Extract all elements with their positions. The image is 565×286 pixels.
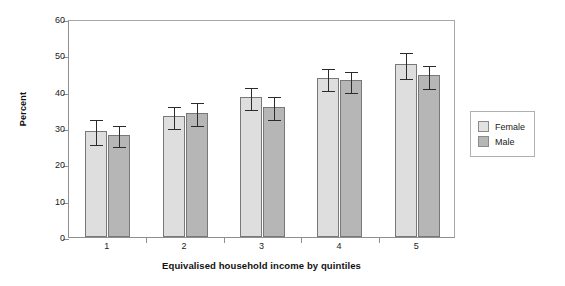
error-cap-upper bbox=[90, 120, 103, 121]
bar-female-q1 bbox=[85, 131, 107, 237]
chart-legend: Female Male bbox=[470, 111, 535, 157]
y-tick-label: 20 bbox=[55, 160, 65, 171]
error-bar-male-q5 bbox=[429, 66, 430, 89]
y-tick-label: 0 bbox=[60, 233, 65, 244]
error-cap-upper bbox=[345, 72, 358, 73]
bar-male-q2 bbox=[186, 113, 208, 237]
error-cap-upper bbox=[168, 107, 181, 108]
error-cap-lower bbox=[268, 120, 281, 121]
x-tick-mark bbox=[379, 237, 380, 243]
error-bar-female-q4 bbox=[328, 69, 329, 92]
error-cap-upper bbox=[322, 69, 335, 70]
legend-label-male: Male bbox=[495, 137, 515, 147]
plot-area: 0102030405060 bbox=[68, 20, 455, 238]
legend-item-female: Female bbox=[478, 119, 525, 134]
legend-swatch-male-icon bbox=[478, 136, 489, 147]
legend-label-female: Female bbox=[495, 122, 525, 132]
error-cap-lower bbox=[90, 145, 103, 146]
x-tick-mark bbox=[301, 237, 302, 243]
error-cap-upper bbox=[423, 66, 436, 67]
error-cap-lower bbox=[322, 91, 335, 92]
chart-figure: Percent 0102030405060 12345 Equivalised … bbox=[0, 0, 565, 286]
bar-male-q3 bbox=[263, 107, 285, 237]
bar-female-q3 bbox=[240, 97, 262, 237]
error-cap-upper bbox=[113, 126, 126, 127]
legend-swatch-female-icon bbox=[478, 121, 489, 132]
error-bar-female-q3 bbox=[251, 88, 252, 110]
x-tick-label: 2 bbox=[164, 241, 204, 251]
y-tick-label: 60 bbox=[55, 15, 65, 26]
bar-female-q5 bbox=[395, 64, 417, 237]
error-bar-female-q2 bbox=[174, 107, 175, 129]
error-bar-male-q3 bbox=[274, 97, 275, 120]
error-bar-male-q1 bbox=[119, 126, 120, 147]
legend-item-male: Male bbox=[478, 134, 525, 149]
y-tick-label: 50 bbox=[55, 51, 65, 62]
error-cap-lower bbox=[191, 126, 204, 127]
x-tick-mark bbox=[146, 237, 147, 243]
x-axis-title: Equivalised household income by quintile… bbox=[68, 260, 455, 271]
error-cap-upper bbox=[191, 103, 204, 104]
error-cap-lower bbox=[113, 147, 126, 148]
x-tick-label: 4 bbox=[319, 241, 359, 251]
x-tick-label: 5 bbox=[396, 241, 436, 251]
bar-male-q1 bbox=[108, 135, 130, 237]
error-cap-lower bbox=[168, 129, 181, 130]
error-cap-upper bbox=[400, 53, 413, 54]
error-bar-male-q4 bbox=[351, 72, 352, 93]
bar-female-q2 bbox=[163, 116, 185, 237]
y-axis-title: Percent bbox=[18, 79, 28, 139]
error-bar-female-q1 bbox=[96, 120, 97, 144]
error-cap-upper bbox=[268, 97, 281, 98]
y-tick-label: 40 bbox=[55, 88, 65, 99]
error-cap-upper bbox=[245, 88, 258, 89]
error-cap-lower bbox=[400, 79, 413, 80]
x-tick-label: 3 bbox=[242, 241, 282, 251]
y-tick-label: 10 bbox=[55, 197, 65, 208]
x-tick-label: 1 bbox=[87, 241, 127, 251]
error-cap-lower bbox=[245, 110, 258, 111]
bar-male-q5 bbox=[418, 75, 440, 237]
error-bar-male-q2 bbox=[197, 103, 198, 126]
error-bar-female-q5 bbox=[406, 53, 407, 79]
bar-female-q4 bbox=[317, 78, 339, 237]
bar-male-q4 bbox=[340, 80, 362, 237]
error-cap-lower bbox=[423, 89, 436, 90]
y-tick-label: 30 bbox=[55, 124, 65, 135]
error-cap-lower bbox=[345, 93, 358, 94]
x-tick-mark bbox=[224, 237, 225, 243]
